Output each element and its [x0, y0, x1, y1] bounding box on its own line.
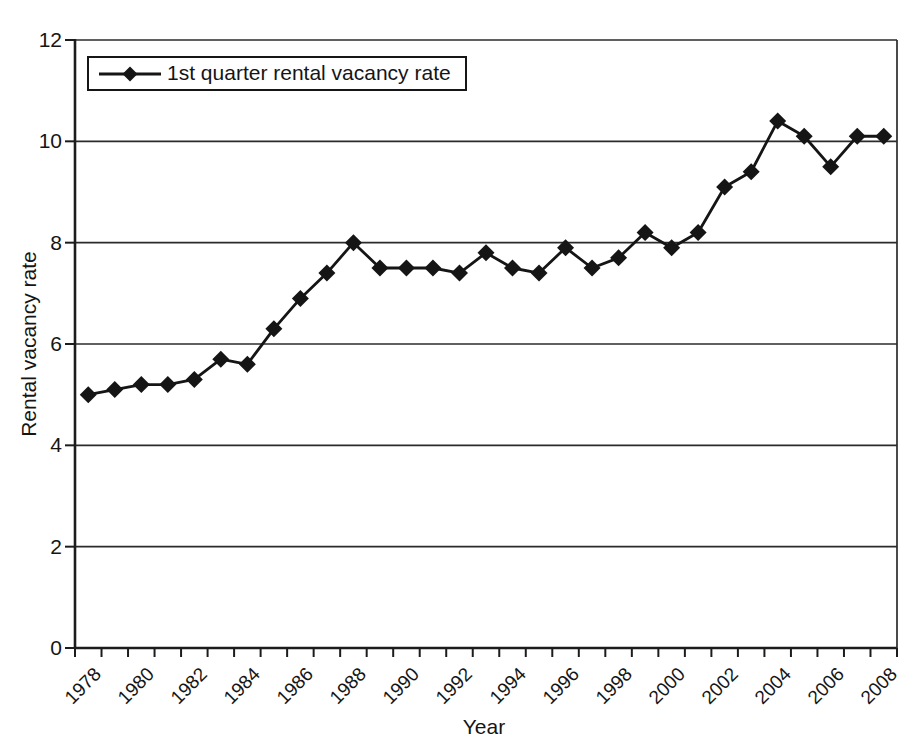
data-point-marker	[875, 128, 892, 145]
data-point-marker	[504, 260, 521, 277]
legend-series-label: 1st quarter rental vacancy rate	[167, 61, 451, 85]
data-point-marker	[743, 163, 760, 180]
y-tick-label: 10	[0, 129, 62, 153]
data-point-marker	[424, 260, 441, 277]
data-point-marker	[80, 386, 97, 403]
y-tick-label: 12	[0, 28, 62, 52]
y-tick-label: 2	[0, 535, 62, 559]
data-point-marker	[716, 178, 733, 195]
y-tick-label: 0	[0, 636, 62, 660]
data-point-marker	[159, 376, 176, 393]
data-point-marker	[106, 381, 123, 398]
data-point-marker	[133, 376, 150, 393]
chart-canvas	[0, 0, 923, 756]
data-point-marker	[769, 113, 786, 130]
legend: 1st quarter rental vacancy rate	[87, 56, 467, 91]
data-point-marker	[398, 260, 415, 277]
legend-line-marker-icon	[97, 66, 163, 82]
y-axis-title: Rental vacancy rate	[17, 251, 41, 437]
data-point-marker	[690, 224, 707, 241]
rental-vacancy-chart: 024681012 197819801982198419861988199019…	[0, 0, 923, 756]
y-tick-label: 4	[0, 433, 62, 457]
x-axis-title: Year	[463, 715, 505, 739]
data-point-marker	[663, 239, 680, 256]
